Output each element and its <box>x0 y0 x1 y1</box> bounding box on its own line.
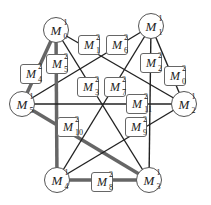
label: M20 <box>170 70 180 82</box>
label: M21 <box>84 39 94 51</box>
label: M12 <box>179 98 190 111</box>
label: M211 <box>132 98 142 110</box>
box-M2_0: M20 <box>164 66 186 86</box>
label: M28 <box>97 176 107 188</box>
label: M13 <box>144 174 155 187</box>
box-M2_9: M29 <box>125 117 147 137</box>
label: M22 <box>146 57 156 69</box>
box-M2_1: M21 <box>78 35 100 55</box>
edge-M1_5-M1_3 <box>22 104 149 180</box>
box-M2_11: M211 <box>126 94 148 114</box>
edge-M1_0-M1_4 <box>56 30 57 180</box>
box-M2_4: M24 <box>20 64 42 84</box>
box-M2_10: M210 <box>57 117 79 137</box>
box-M2_8: M28 <box>91 172 113 192</box>
node-M1_4: M14 <box>44 167 70 193</box>
node-M1_1: M11 <box>138 13 164 39</box>
box-M2_5: M25 <box>46 54 68 74</box>
label: M210 <box>63 121 73 133</box>
label: M23 <box>83 81 93 93</box>
node-M1_0: M10 <box>43 17 69 43</box>
box-M2_2: M22 <box>140 53 162 73</box>
label: M24 <box>26 68 36 80</box>
node-M1_2: M12 <box>171 91 197 117</box>
label: M11 <box>146 20 157 33</box>
label: M27 <box>110 81 120 93</box>
box-M2_6: M26 <box>106 35 128 55</box>
label: M14 <box>52 174 63 187</box>
label: M15 <box>17 98 28 111</box>
label: M25 <box>52 58 62 70</box>
edge-M1_1-M1_3 <box>149 26 151 180</box>
box-M2_7: M27 <box>104 77 126 97</box>
node-M1_3: M13 <box>136 167 162 193</box>
node-M1_5: M15 <box>9 91 35 117</box>
box-M2_3: M23 <box>77 77 99 97</box>
label: M26 <box>112 39 122 51</box>
label: M29 <box>131 121 141 133</box>
label: M10 <box>51 24 62 37</box>
